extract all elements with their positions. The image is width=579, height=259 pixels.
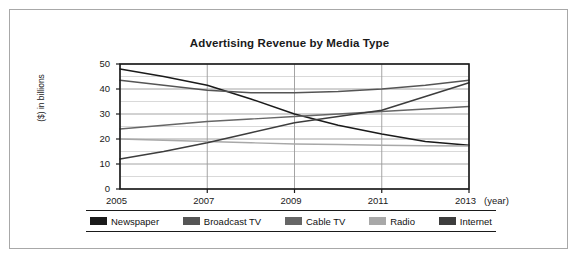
legend-item-cable-tv[interactable]: Cable TV — [285, 216, 345, 227]
x-tick-label: 2011 — [368, 195, 388, 206]
y-tick-label: 0 — [88, 183, 110, 194]
x-tick-label: 2013 — [455, 195, 476, 206]
legend-swatch-radio — [369, 217, 386, 225]
x-axis-unit-label: (year) — [484, 195, 509, 206]
y-tick-label: 10 — [88, 158, 110, 169]
y-tick-label: 20 — [88, 133, 110, 144]
legend-label-newspaper: Newspaper — [111, 216, 159, 227]
chart-legend: Newspaper Broadcast TV Cable TV Radio In… — [86, 210, 496, 232]
y-tick-label: 40 — [88, 83, 110, 94]
legend-swatch-internet — [439, 217, 456, 225]
legend-swatch-newspaper — [90, 217, 107, 225]
figure-frame: Advertising Revenue by Media Type ($) in… — [9, 9, 568, 249]
legend-item-internet[interactable]: Internet — [439, 216, 492, 227]
legend-label-broadcast-tv: Broadcast TV — [204, 216, 261, 227]
x-tick-label: 2009 — [281, 195, 302, 206]
legend-item-broadcast-tv[interactable]: Broadcast TV — [183, 216, 261, 227]
x-tick-label: 2005 — [106, 195, 127, 206]
x-tick-label: 2007 — [193, 195, 214, 206]
legend-swatch-broadcast-tv — [183, 217, 200, 225]
y-tick-label: 50 — [88, 58, 110, 69]
legend-label-internet: Internet — [460, 216, 492, 227]
y-axis-label: ($) in billions — [36, 38, 46, 158]
y-tick-label: 30 — [88, 108, 110, 119]
legend-item-newspaper[interactable]: Newspaper — [90, 216, 159, 227]
legend-label-radio: Radio — [390, 216, 415, 227]
legend-swatch-cable-tv — [285, 217, 302, 225]
legend-label-cable-tv: Cable TV — [306, 216, 345, 227]
legend-item-radio[interactable]: Radio — [369, 216, 415, 227]
